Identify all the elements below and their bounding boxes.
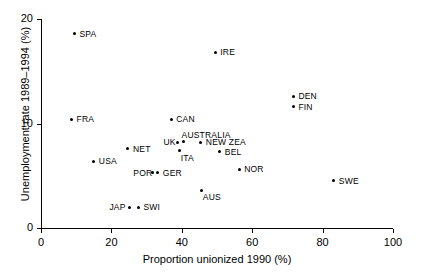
data-point-label: NET — [133, 144, 151, 154]
data-point-label: AUS — [203, 192, 221, 202]
y-axis-line — [41, 19, 42, 228]
data-point-label: SWI — [144, 202, 161, 212]
data-point-label: IRE — [220, 47, 235, 57]
y-tick-mark — [37, 228, 41, 229]
data-point — [292, 95, 295, 98]
x-tick-mark — [182, 229, 183, 233]
data-point — [137, 206, 140, 209]
data-point — [332, 179, 335, 182]
data-point — [218, 150, 221, 153]
data-point-label: BEL — [225, 147, 242, 157]
data-point-label: FRA — [77, 114, 95, 124]
x-tick-mark — [323, 229, 324, 233]
data-point-label: CAN — [176, 114, 195, 124]
data-point — [292, 105, 295, 108]
data-point-label: USA — [99, 156, 117, 166]
data-point-label: SPA — [79, 29, 96, 39]
data-point — [126, 147, 129, 150]
data-point — [170, 118, 173, 121]
data-point — [128, 206, 131, 209]
y-axis-title: Unemployment rate 1989–1994 (%) — [19, 9, 31, 219]
data-point-label: FIN — [298, 102, 312, 112]
data-point — [73, 32, 76, 35]
data-point — [176, 141, 179, 144]
data-point — [156, 171, 159, 174]
x-tick-mark — [111, 229, 112, 233]
data-point — [92, 160, 95, 163]
data-point-label: ITA — [181, 153, 194, 163]
y-tick-mark — [37, 124, 41, 125]
data-point-label: UK — [164, 137, 176, 147]
x-tick-label: 80 — [303, 236, 343, 248]
data-point-label: SWE — [339, 176, 359, 186]
data-point — [70, 118, 73, 121]
y-tick-label: 0 — [0, 221, 33, 233]
x-tick-label: 60 — [232, 236, 272, 248]
data-point-label: JAP — [109, 202, 125, 212]
data-point-label: POR — [133, 168, 152, 178]
x-tick-mark — [41, 229, 42, 233]
data-point — [214, 51, 217, 54]
data-point-label: DEN — [298, 91, 317, 101]
x-axis-title: Proportion unionized 1990 (%) — [41, 253, 393, 265]
x-tick-label: 0 — [21, 236, 61, 248]
y-tick-mark — [37, 19, 41, 20]
x-tick-mark — [393, 229, 394, 233]
x-tick-label: 100 — [373, 236, 413, 248]
data-point — [238, 168, 241, 171]
x-tick-mark — [252, 229, 253, 233]
scatter-plot: 020406080100 01020 SPAFRAUSANETJAPSWIPOR… — [0, 0, 430, 275]
data-point-label: GER — [163, 168, 182, 178]
data-point — [199, 141, 202, 144]
x-tick-label: 40 — [162, 236, 202, 248]
x-axis-line — [41, 228, 393, 229]
x-tick-label: 20 — [91, 236, 131, 248]
data-point-label: NOR — [244, 164, 264, 174]
